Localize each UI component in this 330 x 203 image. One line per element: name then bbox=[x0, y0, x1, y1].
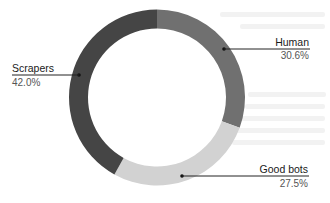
label-human: Human bbox=[275, 36, 309, 48]
label-scrapers: Scrapers bbox=[12, 62, 54, 74]
segment-scrapers bbox=[69, 10, 157, 175]
value-scrapers: 42.0% bbox=[12, 77, 40, 88]
label-good-bots: Good bots bbox=[260, 163, 308, 175]
value-human: 30.6% bbox=[281, 50, 309, 61]
value-good-bots: 27.5% bbox=[280, 178, 308, 189]
segment-human bbox=[157, 10, 245, 128]
donut-segments bbox=[69, 10, 245, 186]
